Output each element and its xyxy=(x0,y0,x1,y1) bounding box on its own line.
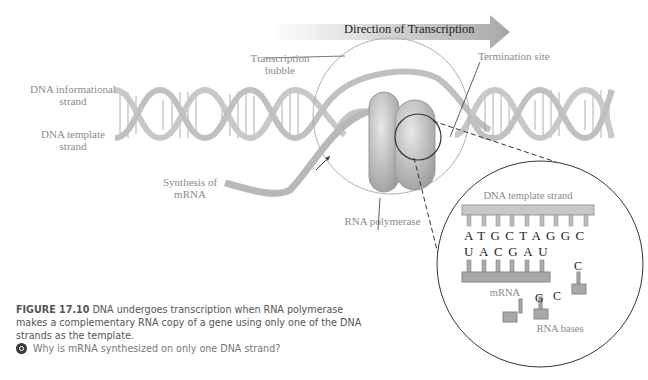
direction-label: Direction of Transcription xyxy=(344,22,475,37)
label-informational-strand: DNA informational strand xyxy=(28,83,118,107)
base: T xyxy=(519,228,531,243)
free-base-c2: C xyxy=(574,259,582,274)
base: C xyxy=(505,228,519,243)
base: C xyxy=(576,228,590,243)
label-termination-site: Termination site xyxy=(478,50,568,62)
label-line: DNA template xyxy=(28,128,118,140)
base: A xyxy=(464,228,477,243)
base: A xyxy=(479,244,494,259)
base: G xyxy=(508,244,523,259)
label-line: Transcription xyxy=(245,52,315,64)
label-line: bubble xyxy=(245,64,315,76)
free-base-c1: C xyxy=(553,289,561,304)
label-line: strand xyxy=(28,95,118,107)
label-transcription-bubble: Transcription bubble xyxy=(245,52,315,76)
base: C xyxy=(494,244,508,259)
base: U xyxy=(464,244,479,259)
figure-number: FIGURE 17.10 xyxy=(16,304,89,315)
label-line: Synthesis of xyxy=(155,176,225,188)
question-target-icon xyxy=(16,343,27,354)
base: G xyxy=(546,228,561,243)
inset-mrna-label: mRNA xyxy=(480,287,530,299)
label-synthesis-mrna: Synthesis of mRNA xyxy=(155,176,225,200)
base: G xyxy=(561,228,576,243)
base: A xyxy=(531,228,546,243)
base: A xyxy=(523,244,538,259)
free-base-g: G xyxy=(535,291,544,306)
base: T xyxy=(477,228,490,243)
label-line: strand xyxy=(28,140,118,152)
label-line: DNA informational xyxy=(28,83,118,95)
inset-rna-bases-label: RNA bases xyxy=(530,323,590,335)
inset-title: DNA template strand xyxy=(472,190,584,202)
base: G xyxy=(491,228,506,243)
label-rna-polymerase: RNA polymerase xyxy=(335,215,430,227)
inset-dna-bases: ATGCTAGGC xyxy=(464,228,589,244)
base: U xyxy=(538,244,553,259)
dna-double-helix-right xyxy=(455,90,612,138)
rna-polymerase-shape xyxy=(369,92,435,192)
label-line: mRNA xyxy=(155,188,225,200)
question-text: Why is mRNA synthesized on only one DNA … xyxy=(33,343,280,354)
label-template-strand: DNA template strand xyxy=(28,128,118,152)
figure-caption: FIGURE 17.10 DNA undergoes transcription… xyxy=(16,303,376,342)
inset-mrna-bases: UACGAU xyxy=(464,244,553,260)
caption-question: Why is mRNA synthesized on only one DNA … xyxy=(16,343,280,354)
